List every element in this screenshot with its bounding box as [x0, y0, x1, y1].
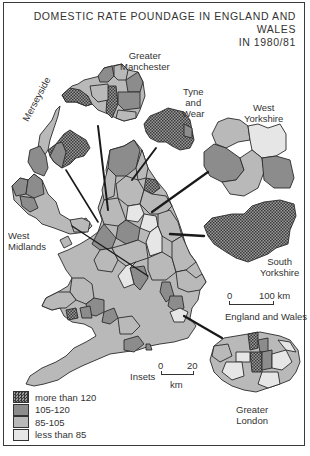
label-line: Greater: [236, 404, 268, 415]
label-line: London: [236, 415, 268, 426]
legend-swatch-medium: [13, 416, 29, 428]
label-line: West: [8, 230, 46, 241]
legend-label: 105-120: [35, 404, 70, 415]
legend-swatch-dark: [13, 404, 29, 416]
scale-insets-unit: km: [170, 379, 183, 390]
label-line: Wear: [182, 108, 205, 119]
label-greater-london: Greater London: [236, 404, 268, 426]
scale-insets-line: [161, 371, 194, 375]
scale-main-end: 100 km: [259, 290, 290, 301]
legend-label: more than 120: [35, 392, 96, 403]
inset-south-yorkshire: [204, 200, 296, 262]
scale-main-line: [229, 301, 274, 305]
label-line: Yorkshire: [244, 113, 283, 124]
label-line: Midlands: [8, 241, 46, 252]
inset-greater-manchester: [62, 64, 145, 121]
scale-main-caption: England and Wales: [225, 311, 307, 322]
england-and-wales: [26, 140, 206, 386]
legend-label: less than 85: [35, 429, 86, 440]
legend-item-less-than-85: less than 85: [13, 429, 96, 442]
label-line: Greater: [120, 50, 170, 61]
label-line: Tyne: [182, 86, 205, 97]
label-south-yorkshire: South Yorkshire: [260, 256, 299, 278]
label-line: Yorkshire: [260, 267, 299, 278]
label-line: West: [244, 102, 283, 113]
legend-swatch-crosshatch: [13, 391, 29, 403]
label-tyne-and-wear: Tyne and Wear: [182, 86, 205, 119]
label-west-yorkshire: West Yorkshire: [244, 102, 283, 124]
legend-item-more-than-120: more than 120: [13, 391, 96, 404]
label-greater-manchester: Greater Manchester: [120, 50, 170, 72]
legend-swatch-light: [13, 429, 29, 441]
scale-insets-start: 0: [158, 360, 163, 371]
label-line: and: [182, 97, 205, 108]
legend-item-105-120: 105-120: [13, 404, 96, 417]
scale-insets-label: Insets: [130, 371, 155, 382]
scale-main-start: 0: [227, 290, 232, 301]
label-line: South: [260, 256, 299, 267]
legend: more than 120 105-120 85-105 less than 8…: [13, 391, 96, 441]
scale-insets-end: 20: [187, 360, 198, 371]
inset-merseyside: [28, 106, 90, 176]
inset-greater-london: [210, 332, 300, 392]
label-line: Manchester: [120, 61, 170, 72]
legend-item-85-105: 85-105: [13, 416, 96, 429]
legend-label: 85-105: [35, 417, 65, 428]
inset-west-yorkshire: [204, 118, 294, 196]
label-west-midlands: West Midlands: [8, 230, 46, 252]
